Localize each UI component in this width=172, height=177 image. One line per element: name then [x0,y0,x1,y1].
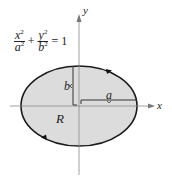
eq-y-exp: 2 [44,28,48,36]
eq-plus: + [28,34,35,49]
eq-x-exp: 2 [20,28,24,36]
semi-major-label: a [106,88,112,103]
eq-equals: = 1 [51,34,67,49]
x-axis-label: x [157,99,162,111]
y-axis-label: y [83,4,88,16]
semi-minor-label: b [64,79,70,94]
region-label: R [56,111,64,127]
fraction-x-over-a: x2 a2 [14,30,25,53]
fraction-y-over-b: y2 b2 [38,30,49,53]
eq-a-exp: 2 [21,40,25,48]
x-axis-arrow-icon [148,104,155,109]
ellipse-equation: x2 a2 + y2 b2 = 1 [14,30,70,53]
eq-b-exp: 2 [44,40,48,48]
y-axis-arrow-icon [77,14,82,22]
ellipse-diagram [0,0,172,177]
